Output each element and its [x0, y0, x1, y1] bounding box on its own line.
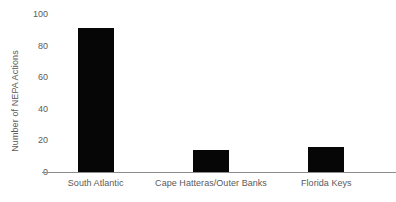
y-axis-tick-label: 20 — [14, 135, 48, 145]
y-axis-tick-label: 80 — [14, 41, 48, 51]
y-axis-tick-label: 100 — [14, 9, 48, 19]
x-axis-category-label: South Atlantic — [68, 178, 124, 188]
plot-area: South AtlanticCape Hatteras/Outer BanksF… — [50, 0, 396, 202]
y-axis-zero-tick — [42, 172, 51, 173]
bar — [78, 28, 114, 172]
bar-chart: Number of NEPA Actions 020406080100 Sout… — [0, 0, 396, 202]
x-axis-category-label: Cape Hatteras/Outer Banks — [155, 178, 267, 188]
x-axis-category-label: Florida Keys — [301, 178, 352, 188]
bar — [308, 147, 344, 172]
y-axis-tick-label: 40 — [14, 104, 48, 114]
x-axis-line — [50, 172, 396, 173]
y-axis-tick-label: 60 — [14, 72, 48, 82]
bar — [193, 150, 229, 172]
